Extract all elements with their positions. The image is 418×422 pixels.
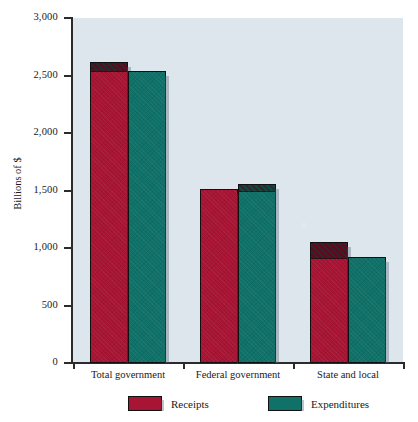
bar-texture bbox=[91, 63, 127, 362]
bar-hatch-cap bbox=[311, 243, 347, 259]
y-tick-label: 1,000 bbox=[0, 241, 58, 252]
x-tick-mark bbox=[293, 362, 295, 369]
bar-fill bbox=[129, 72, 165, 362]
receipts-swatch bbox=[128, 396, 162, 411]
bar-expenditures-federal-government bbox=[238, 184, 276, 363]
y-tick-label: 3,000 bbox=[0, 11, 58, 22]
bar-shadow bbox=[165, 76, 169, 363]
category-label-total-government: Total government bbox=[73, 369, 183, 380]
legend-swatch-shadow bbox=[301, 400, 304, 411]
y-tick-mark bbox=[64, 17, 73, 19]
y-tick-label: 1,500 bbox=[0, 184, 58, 195]
category-label-state-and-local: State and local bbox=[293, 369, 403, 380]
bar-expenditures-total-government bbox=[128, 71, 166, 363]
bar-shadow bbox=[385, 262, 389, 363]
bar-receipts-federal-government bbox=[200, 189, 238, 363]
x-tick-mark bbox=[403, 362, 405, 369]
bar-chart: 05001,0001,5002,0002,5003,000 Billions o… bbox=[0, 0, 418, 422]
bar-texture bbox=[201, 190, 237, 362]
y-tick-label: 0 bbox=[0, 356, 58, 367]
category-label-federal-government: Federal government bbox=[183, 369, 293, 380]
legend-label: Receipts bbox=[171, 398, 209, 410]
bar-hatch-cap bbox=[239, 185, 275, 192]
y-tick-mark bbox=[64, 362, 73, 364]
bar-expenditures-state-and-local bbox=[348, 257, 386, 363]
y-tick-mark bbox=[64, 132, 73, 134]
y-tick-mark bbox=[64, 305, 73, 307]
bar-hatch-cap bbox=[91, 63, 127, 73]
bar-fill bbox=[311, 243, 347, 362]
legend-label: Expenditures bbox=[311, 398, 369, 410]
chart-legend: ReceiptsExpenditures bbox=[0, 392, 418, 418]
legend-item-receipts: Receipts bbox=[128, 396, 209, 411]
y-tick-mark bbox=[64, 75, 73, 77]
bar-fill bbox=[239, 185, 275, 362]
legend-swatch-shadow bbox=[161, 400, 164, 411]
bar-shadow bbox=[275, 189, 279, 363]
bar-receipts-state-and-local bbox=[310, 242, 348, 363]
x-tick-mark bbox=[183, 362, 185, 369]
legend-item-expenditures: Expenditures bbox=[268, 396, 369, 411]
bar-texture bbox=[311, 243, 347, 362]
bar-receipts-total-government bbox=[90, 62, 128, 363]
y-axis-title: Billions of $ bbox=[12, 139, 23, 229]
bar-fill bbox=[201, 190, 237, 362]
y-tick-label: 500 bbox=[0, 299, 58, 310]
bar-texture bbox=[129, 72, 165, 362]
x-tick-mark bbox=[73, 362, 75, 369]
y-tick-mark bbox=[64, 247, 73, 249]
bar-fill bbox=[91, 63, 127, 362]
y-tick-label: 2,000 bbox=[0, 126, 58, 137]
expenditures-swatch bbox=[268, 396, 302, 411]
y-tick-mark bbox=[64, 190, 73, 192]
y-tick-label: 2,500 bbox=[0, 69, 58, 80]
bar-fill bbox=[349, 258, 385, 362]
bar-texture bbox=[239, 185, 275, 362]
bar-texture bbox=[349, 258, 385, 362]
